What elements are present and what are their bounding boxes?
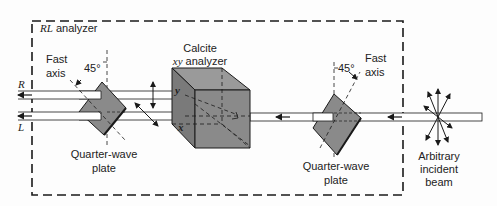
label-l: L <box>18 121 24 133</box>
rl-analyzer-diagram: RL analyzer R L Fast axis 45° Quarter-wa… <box>0 0 497 206</box>
label-r: R <box>18 78 25 90</box>
right-angle-label: 45° <box>338 62 355 74</box>
right-quarter-wave-plate <box>313 62 361 158</box>
calcite-y-label: y <box>175 84 180 96</box>
incident-beam <box>250 113 482 121</box>
calcite-xy-analyzer <box>172 68 250 148</box>
left-angle-label: 45° <box>84 62 101 74</box>
left-fast-axis-label: Fast axis <box>46 53 67 79</box>
calcite-x-label: x <box>178 121 184 133</box>
calcite-title: Calcite xy analyzer <box>165 42 235 67</box>
incident-beam-caption: Arbitrary incident beam <box>412 150 466 188</box>
right-fast-axis-label: Fast axis <box>365 52 386 78</box>
box-title: RL analyzer <box>40 22 97 34</box>
right-plate-caption: Quarter-wave plate <box>300 160 372 186</box>
left-plate-caption: Quarter-wave plate <box>68 148 140 174</box>
